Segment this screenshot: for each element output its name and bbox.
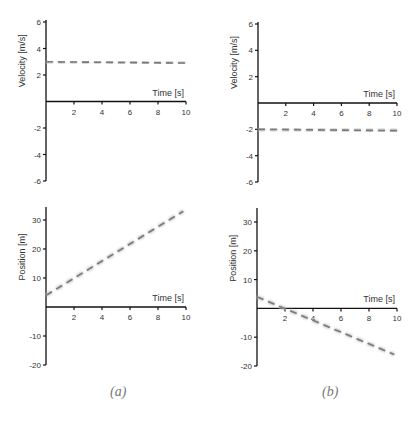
x-tick-label: 6 xyxy=(128,108,133,117)
y-tick-label: -6 xyxy=(246,178,254,187)
x-tick-label: 2 xyxy=(72,313,77,322)
y-tick-label: 20 xyxy=(32,245,41,254)
data-line xyxy=(46,211,183,295)
x-tick-label: 4 xyxy=(311,109,316,118)
x-tick-label: 8 xyxy=(156,108,161,117)
y-tick-label: 20 xyxy=(243,247,252,256)
x-axis-label: Time [s] xyxy=(363,89,395,99)
x-tick-label: 2 xyxy=(284,109,289,118)
x-tick-label: 8 xyxy=(156,313,161,322)
data-line xyxy=(258,129,397,130)
data-line-shadow xyxy=(258,129,397,130)
y-tick-label: 6 xyxy=(37,18,42,27)
x-tick-label: 4 xyxy=(100,313,105,322)
caption-b: (b) xyxy=(322,384,338,400)
y-tick-label: -2 xyxy=(34,124,42,133)
figure: -6-4-2246246810Time [s]Velocity [m/s] -6… xyxy=(0,0,420,424)
x-tick-label: 8 xyxy=(367,109,372,118)
y-tick-label: -2 xyxy=(246,125,254,134)
x-tick-label: 2 xyxy=(283,314,288,323)
y-tick-label: 2 xyxy=(37,71,42,80)
x-tick-label: 10 xyxy=(393,314,402,323)
y-tick-label: 10 xyxy=(243,276,252,285)
x-axis-label: Time [s] xyxy=(152,88,184,98)
y-tick-label: -20 xyxy=(29,361,41,370)
x-tick-label: 10 xyxy=(182,108,191,117)
y-axis-label: Position [m] xyxy=(17,233,27,280)
data-line xyxy=(46,62,186,63)
x-tick-label: 10 xyxy=(182,313,191,322)
y-axis-label: Velocity [m/s] xyxy=(17,34,27,87)
y-tick-label: 6 xyxy=(249,20,254,29)
x-tick-label: 2 xyxy=(72,108,77,117)
data-line-shadow xyxy=(46,62,186,63)
chart-b-position: -20-10102030246810Time [s]Position [m] xyxy=(228,208,402,371)
y-tick-label: -4 xyxy=(34,151,42,160)
y-tick-label: 4 xyxy=(37,45,42,54)
chart-a-position: -20-10102030246810Time [s]Position [m] xyxy=(17,207,191,370)
y-tick-label: 4 xyxy=(249,46,254,55)
y-tick-label: -10 xyxy=(240,333,252,342)
x-tick-label: 6 xyxy=(339,314,344,323)
data-line xyxy=(257,297,394,355)
caption-a: (a) xyxy=(110,384,126,400)
y-tick-label: -20 xyxy=(240,362,252,371)
y-tick-label: 10 xyxy=(32,274,41,283)
y-tick-label: -4 xyxy=(246,152,254,161)
y-tick-label: 30 xyxy=(32,216,41,225)
y-tick-label: -6 xyxy=(34,177,42,186)
plots-canvas: -6-4-2246246810Time [s]Velocity [m/s] -6… xyxy=(0,0,420,424)
x-tick-label: 8 xyxy=(367,314,372,323)
y-tick-label: 30 xyxy=(243,218,252,227)
y-axis-label: Position [m] xyxy=(228,235,238,282)
chart-a-velocity: -6-4-2246246810Time [s]Velocity [m/s] xyxy=(17,18,191,186)
y-axis-label: Velocity [m/s] xyxy=(229,36,239,89)
x-axis-label: Time [s] xyxy=(152,293,184,303)
y-tick-label: 2 xyxy=(249,73,254,82)
y-tick-label: -10 xyxy=(29,332,41,341)
x-tick-label: 6 xyxy=(339,109,344,118)
chart-b-velocity: -6-4-2246246810Time [s]Velocity [m/s] xyxy=(229,20,402,187)
x-tick-label: 4 xyxy=(100,108,105,117)
x-tick-label: 10 xyxy=(393,109,402,118)
x-tick-label: 6 xyxy=(128,313,133,322)
x-axis-label: Time [s] xyxy=(363,294,395,304)
